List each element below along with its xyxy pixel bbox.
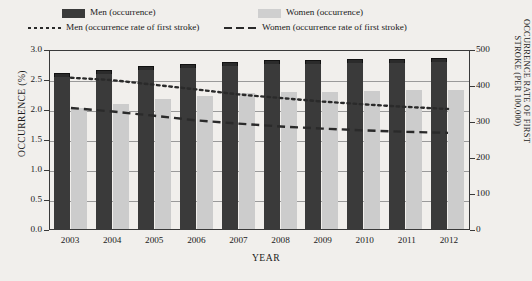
legend-swatch-women-bar-icon xyxy=(258,9,281,18)
y-axis-right-tick-label: 300 xyxy=(476,117,510,126)
line-women-rate xyxy=(71,108,448,133)
y-axis-right-tick-mark xyxy=(470,86,475,87)
legend-row-lines: Men (occurrence rate of first stroke) Wo… xyxy=(0,21,532,35)
y-axis-left-title: OCCURRENCE (%) xyxy=(16,39,27,189)
y-axis-right-tick-label: 400 xyxy=(476,81,510,90)
x-axis-tick-label: 2003 xyxy=(47,236,93,245)
chart-legend: Men (occurrence) Women (occurrence) Men … xyxy=(0,6,532,38)
y-axis-right-tick-label: 100 xyxy=(476,189,510,198)
y-axis-right-tick-mark xyxy=(470,230,475,231)
x-axis-tick-label: 2010 xyxy=(342,236,388,245)
y-axis-left-tick-mark xyxy=(44,230,49,231)
legend-item-women-rate: Women (occurrence rate of first stroke) xyxy=(224,21,407,35)
stroke-occurrence-chart: Men (occurrence) Women (occurrence) Men … xyxy=(0,0,532,281)
y-axis-right-tick-mark xyxy=(470,158,475,159)
y-axis-left-tick-label: 0.0 xyxy=(8,225,42,234)
legend-item-men-occurrence: Men (occurrence) xyxy=(62,6,156,20)
y-axis-right-tick-mark xyxy=(470,50,475,51)
legend-label-women-rate: Women (occurrence rate of first stroke) xyxy=(262,23,407,32)
legend-dashed-line-icon xyxy=(224,24,257,33)
y-axis-right-title: OCCURRENCE RATE OF FIRST STROKE (PER 100… xyxy=(513,11,531,151)
legend-label-men-occurrence: Men (occurrence) xyxy=(90,8,156,17)
x-axis-tick-label: 2008 xyxy=(258,236,304,245)
y-axis-left-tick-label: 0.5 xyxy=(8,195,42,204)
x-axis-tick-label: 2012 xyxy=(426,236,472,245)
x-axis-title: YEAR xyxy=(0,252,532,263)
x-axis-tick-label: 2004 xyxy=(89,236,135,245)
x-axis-tick-label: 2007 xyxy=(215,236,261,245)
plot-area xyxy=(49,50,470,230)
legend-label-women-occurrence: Women (occurrence) xyxy=(286,8,363,17)
y-axis-right-tick-mark xyxy=(470,194,475,195)
line-men-rate xyxy=(71,78,448,109)
legend-label-men-rate: Men (occurrence rate of first stroke) xyxy=(66,23,199,32)
x-axis-tick-label: 2005 xyxy=(131,236,177,245)
legend-row-bars: Men (occurrence) Women (occurrence) xyxy=(0,6,532,20)
legend-item-men-rate: Men (occurrence rate of first stroke) xyxy=(28,21,199,35)
y-axis-right-tick-label: 500 xyxy=(476,45,510,54)
legend-item-women-occurrence: Women (occurrence) xyxy=(258,6,363,20)
y-axis-right-tick-label: 200 xyxy=(476,153,510,162)
line-series-container xyxy=(50,51,469,229)
x-axis-tick-label: 2009 xyxy=(300,236,346,245)
x-axis-tick-label: 2011 xyxy=(384,236,430,245)
legend-swatch-men-bar-icon xyxy=(62,9,85,18)
x-axis-tick-label: 2006 xyxy=(173,236,219,245)
legend-dotted-line-icon xyxy=(28,24,61,33)
y-axis-right-tick-mark xyxy=(470,122,475,123)
y-axis-right-tick-label: 0 xyxy=(476,225,510,234)
